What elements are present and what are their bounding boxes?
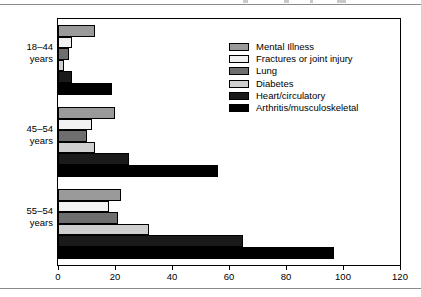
y-axis-label-line: 45–54 [1, 123, 53, 135]
bar-heart-circulatory-group-3[interactable] [58, 235, 243, 247]
y-axis-label-line: years [1, 217, 53, 229]
legend-swatch-icon-arthritis-musculoskeletal [229, 104, 249, 112]
legend-item-fractures-or-joint-injury[interactable]: Fractures or joint injury [229, 53, 394, 65]
x-axis-tick-label-60: 60 [214, 271, 244, 282]
bar-row [58, 189, 400, 201]
y-axis-label-line: 55–54 [1, 205, 53, 217]
bar-diabetes-group-1[interactable] [58, 60, 64, 72]
bar-fractures-or-joint-injury-group-2[interactable] [58, 119, 92, 131]
x-axis-tick-100 [343, 266, 344, 270]
legend-item-label: Diabetes [256, 79, 294, 89]
bar-row [58, 165, 400, 177]
bar-row [58, 130, 400, 142]
bar-diabetes-group-2[interactable] [58, 142, 95, 154]
legend-item-arthritis-musculoskeletal[interactable]: Arthritis/musculoskeletal [229, 102, 394, 114]
x-axis-tick-label-40: 40 [157, 271, 187, 282]
x-axis-tick-20 [115, 266, 116, 270]
legend-item-label: Mental Illness [256, 42, 314, 52]
scan-artifact [337, 0, 346, 3]
legend-swatch-icon-heart-circulatory [229, 92, 249, 100]
bar-row [58, 212, 400, 224]
bar-arthritis-musculoskeletal-group-3[interactable] [58, 247, 334, 259]
legend-item-diabetes[interactable]: Diabetes [229, 78, 394, 90]
legend-swatch-icon-fractures-or-joint-injury [229, 55, 249, 63]
scan-artifact [243, 0, 248, 3]
bar-group-3 [58, 189, 400, 259]
legend-swatch-icon-diabetes [229, 80, 249, 88]
y-axis-label-group-2: 45–54years [1, 123, 53, 146]
x-axis-tick-120 [400, 266, 401, 270]
page-rule-top [0, 4, 421, 5]
bar-mental-illness-group-1[interactable] [58, 25, 95, 37]
legend-item-label: Arthritis/musculoskeletal [256, 103, 358, 113]
chart-plot-frame: Mental IllnessFractures or joint injuryL… [57, 18, 401, 266]
bar-row [58, 25, 400, 37]
legend-item-lung[interactable]: Lung [229, 65, 394, 77]
chart-legend: Mental IllnessFractures or joint injuryL… [229, 41, 394, 114]
bar-arthritis-musculoskeletal-group-1[interactable] [58, 83, 112, 95]
legend-item-label: Heart/circulatory [256, 91, 325, 101]
x-axis-tick-60 [229, 266, 230, 270]
x-axis-tick-label-0: 0 [43, 271, 73, 282]
bar-row [58, 201, 400, 213]
y-axis-label-line: years [1, 135, 53, 147]
legend-item-mental-illness[interactable]: Mental Illness [229, 41, 394, 53]
x-axis-tick-40 [172, 266, 173, 270]
x-axis-tick-label-80: 80 [271, 271, 301, 282]
y-axis-label-line: 18–44 [1, 41, 53, 53]
bar-group-2 [58, 107, 400, 177]
bar-lung-group-3[interactable] [58, 212, 118, 224]
bar-row [58, 235, 400, 247]
bar-fractures-or-joint-injury-group-3[interactable] [58, 201, 109, 213]
bar-lung-group-2[interactable] [58, 130, 87, 142]
bar-row [58, 119, 400, 131]
bar-arthritis-musculoskeletal-group-2[interactable] [58, 165, 218, 177]
x-axis-tick-label-100: 100 [328, 271, 358, 282]
legend-item-label: Lung [256, 66, 277, 76]
bar-row [58, 224, 400, 236]
bar-diabetes-group-3[interactable] [58, 224, 149, 236]
legend-swatch-icon-lung [229, 67, 249, 75]
bar-row [58, 153, 400, 165]
scan-artifact [284, 0, 289, 3]
x-axis-tick-label-20: 20 [100, 271, 130, 282]
bar-heart-circulatory-group-2[interactable] [58, 153, 129, 165]
legend-item-heart-circulatory[interactable]: Heart/circulatory [229, 90, 394, 102]
scan-artifact [310, 0, 313, 3]
bar-fractures-or-joint-injury-group-1[interactable] [58, 37, 72, 49]
bar-lung-group-1[interactable] [58, 48, 69, 60]
bar-row [58, 142, 400, 154]
y-axis-label-line: years [1, 53, 53, 65]
legend-item-label: Fractures or joint injury [256, 54, 353, 64]
y-axis-label-group-1: 18–44years [1, 41, 53, 64]
bar-heart-circulatory-group-1[interactable] [58, 71, 72, 83]
bar-mental-illness-group-2[interactable] [58, 107, 115, 119]
bar-mental-illness-group-3[interactable] [58, 189, 121, 201]
x-axis-tick-0 [58, 266, 59, 270]
bar-row [58, 247, 400, 259]
x-axis: 020406080100120 [57, 266, 401, 292]
y-axis-label-group-3: 55–54years [1, 205, 53, 228]
x-axis-tick-label-120: 120 [385, 271, 415, 282]
x-axis-tick-80 [286, 266, 287, 270]
legend-swatch-icon-mental-illness [229, 43, 249, 51]
